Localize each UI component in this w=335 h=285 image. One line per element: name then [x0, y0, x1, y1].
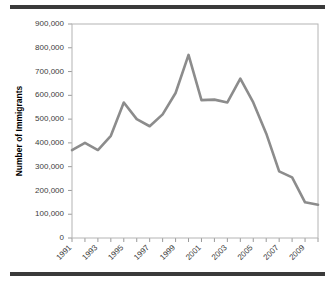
x-axis-tick-label: 1999 — [158, 243, 177, 262]
y-axis-title: Number of Immigrants — [14, 85, 24, 176]
x-axis-tick-label: 2005 — [236, 243, 255, 262]
x-axis-tick-marks — [72, 238, 318, 242]
y-axis-tick-label: 800,000 — [35, 43, 64, 52]
data-series-line — [72, 55, 318, 205]
x-axis-tick-label: 2009 — [288, 243, 307, 262]
y-axis-tick-label: 0 — [60, 233, 65, 242]
x-axis-tick-label: 1997 — [132, 243, 151, 262]
x-axis-tick-label: 1993 — [80, 243, 99, 262]
plot-frame — [72, 24, 318, 238]
x-axis-tick-label: 2001 — [184, 243, 203, 262]
chart-svg: 0100,000200,000300,000400,000500,000600,… — [0, 14, 335, 270]
y-axis-tick-label: 600,000 — [35, 90, 64, 99]
y-axis-tick-label: 700,000 — [35, 67, 64, 76]
y-axis-tick-label: 300,000 — [35, 162, 64, 171]
top-divider — [10, 5, 325, 9]
x-axis-tick-label: 1991 — [54, 243, 73, 262]
line-chart: 0100,000200,000300,000400,000500,000600,… — [0, 14, 335, 270]
figure-container: 0100,000200,000300,000400,000500,000600,… — [0, 0, 335, 285]
y-axis-tick-label: 400,000 — [35, 138, 64, 147]
y-axis-tick-label: 900,000 — [35, 19, 64, 28]
x-axis-tick-labels: 1991199319951997199920012003200520072009 — [54, 243, 306, 262]
y-axis-tick-label: 200,000 — [35, 186, 64, 195]
bottom-divider — [10, 272, 325, 276]
y-axis-tick-label: 500,000 — [35, 114, 64, 123]
x-axis-tick-label: 2007 — [262, 243, 281, 262]
y-axis-tick-label: 100,000 — [35, 209, 64, 218]
y-axis-tick-labels: 0100,000200,000300,000400,000500,000600,… — [35, 19, 64, 242]
y-axis-tick-marks — [68, 24, 72, 238]
x-axis-tick-label: 2003 — [210, 243, 229, 262]
x-axis-tick-label: 1995 — [106, 243, 125, 262]
